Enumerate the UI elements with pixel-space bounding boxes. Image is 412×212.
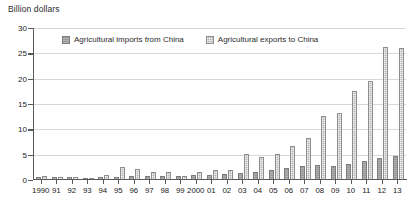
x-axis-tick (41, 180, 42, 184)
gridline (34, 53, 406, 54)
x-axis-label: 06 (284, 186, 293, 195)
x-axis-label: 01 (207, 186, 216, 195)
bar-exports-06 (290, 146, 295, 180)
x-axis-label: 07 (300, 186, 309, 195)
x-axis-label: 94 (98, 186, 107, 195)
bar-imports-09 (331, 166, 336, 180)
bar-exports-10 (352, 91, 357, 180)
x-axis-label: 97 (145, 186, 154, 195)
x-axis-label: 93 (83, 186, 92, 195)
x-axis-tick (289, 180, 290, 184)
x-axis-tick (165, 180, 166, 184)
x-axis-label: 92 (67, 186, 76, 195)
x-axis-tick (258, 180, 259, 184)
x-axis-tick (180, 180, 181, 184)
x-axis-label: 95 (114, 186, 123, 195)
x-axis-label: 10 (346, 186, 355, 195)
x-axis-tick (87, 180, 88, 184)
bar-exports-09 (337, 113, 342, 180)
bar-imports-11 (362, 161, 367, 180)
x-axis-label: 1990 (32, 186, 49, 195)
x-axis-tick (351, 180, 352, 184)
x-axis-label: 02 (222, 186, 231, 195)
x-axis-tick (149, 180, 150, 184)
x-axis-label: 09 (331, 186, 340, 195)
x-axis-tick (134, 180, 135, 184)
x-axis-tick (227, 180, 228, 184)
x-axis-label: 11 (362, 186, 370, 195)
y-axis-tick (28, 129, 33, 130)
gridline (34, 79, 406, 80)
y-axis-tick (28, 79, 33, 80)
bar-imports-12 (377, 158, 382, 180)
x-axis-tick (211, 180, 212, 184)
y-axis-label: 30 (3, 24, 27, 33)
bar-exports-03 (244, 154, 249, 180)
bar-imports-13 (393, 156, 398, 180)
y-axis-tick (28, 28, 33, 29)
x-axis-label: 91 (52, 186, 61, 195)
bar-imports-07 (300, 166, 305, 180)
gridline (34, 104, 406, 105)
bar-exports-12 (383, 47, 388, 180)
plot-area (33, 28, 405, 180)
agricultural-trade-bar-chart: Billion dollars Agricultural imports fro… (0, 0, 412, 212)
bar-exports-05 (275, 154, 280, 180)
y-axis-tick (28, 53, 33, 54)
x-axis-label: 05 (269, 186, 278, 195)
bar-exports-08 (321, 116, 326, 180)
bar-imports-08 (315, 165, 320, 180)
y-axis-label: 0 (3, 176, 27, 185)
y-axis-tick (28, 180, 33, 181)
bar-exports-04 (259, 157, 264, 180)
x-axis-tick (242, 180, 243, 184)
x-axis-tick (103, 180, 104, 184)
x-axis-label: 04 (253, 186, 262, 195)
y-axis-label: 10 (3, 125, 27, 134)
x-axis-tick (382, 180, 383, 184)
x-axis-label: 96 (129, 186, 138, 195)
x-axis-label: 13 (393, 186, 402, 195)
plot-inner (34, 28, 405, 180)
x-axis-tick (397, 180, 398, 184)
bar-exports-13 (399, 48, 404, 180)
chart-axis-title: Billion dollars (8, 4, 60, 14)
y-axis-label: 20 (3, 74, 27, 83)
bar-imports-10 (346, 164, 351, 180)
y-axis-label: 5 (3, 150, 27, 159)
y-axis-tick (28, 155, 33, 156)
x-axis-label: 2000 (187, 186, 204, 195)
y-axis-tick (28, 104, 33, 105)
x-axis-tick (304, 180, 305, 184)
x-axis-tick (196, 180, 197, 184)
x-axis-label: 03 (238, 186, 247, 195)
x-axis-tick (118, 180, 119, 184)
x-axis-label: 08 (315, 186, 324, 195)
x-axis-tick (56, 180, 57, 184)
gridline (34, 28, 406, 29)
y-axis-label: 25 (3, 49, 27, 58)
gridline (34, 155, 406, 156)
y-axis-label: 15 (3, 100, 27, 109)
x-axis-tick (273, 180, 274, 184)
x-axis-tick (72, 180, 73, 184)
gridline (34, 129, 406, 130)
x-axis-tick (366, 180, 367, 184)
bar-exports-11 (368, 81, 373, 180)
x-axis-tick (320, 180, 321, 184)
x-axis-label: 98 (160, 186, 169, 195)
x-axis-label: 99 (176, 186, 185, 195)
x-axis-tick (335, 180, 336, 184)
bar-exports-07 (306, 138, 311, 180)
x-axis-label: 12 (377, 186, 386, 195)
